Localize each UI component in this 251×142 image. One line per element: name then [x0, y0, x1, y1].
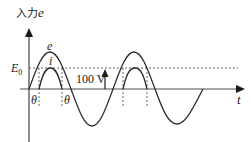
x-axis-label: t	[237, 93, 241, 106]
curve-i-1	[39, 68, 62, 89]
y-axis-label-prefix: 入力	[16, 7, 38, 20]
theta-label-right: θ	[64, 94, 70, 106]
y-axis-label: 入力e	[16, 6, 44, 19]
e0-label-sub: 0	[18, 68, 22, 77]
curve-e-label: e	[47, 40, 52, 52]
curve-i-2	[123, 68, 147, 89]
theta-label-left: θ	[31, 94, 37, 106]
curve-i-label: i	[49, 55, 52, 67]
y-axis-arrow-icon	[25, 28, 33, 37]
waveform-diagram	[0, 0, 251, 142]
e0-label: E0	[11, 62, 22, 77]
y-axis-label-var: e	[38, 5, 44, 20]
voltage-label: 100 V	[76, 73, 105, 85]
